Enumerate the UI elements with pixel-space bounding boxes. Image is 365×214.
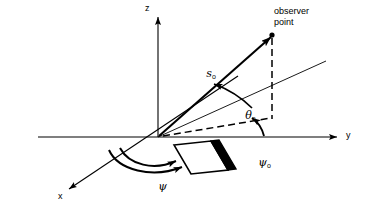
observer-point-diagram: z y x observer point so θo ψo ψ	[0, 0, 365, 214]
observer-point-label-line2: point	[274, 17, 294, 27]
slant-range-subscript: o	[212, 73, 216, 80]
observer-point-label-line1: observer	[274, 6, 309, 16]
psi-o-angle-label: ψo	[246, 143, 271, 182]
axis-label-z: z	[145, 3, 150, 13]
theta-subscript: o	[252, 115, 256, 122]
psi-o-subscript: o	[267, 162, 271, 169]
theta-symbol: θ	[245, 109, 252, 122]
observer-point-marker	[269, 32, 274, 37]
psi-symbol: ψ	[158, 180, 167, 193]
body-plate	[174, 140, 236, 174]
psi-o-symbol: ψ	[258, 156, 267, 169]
slant-range-label: so	[194, 54, 216, 93]
axis-label-x: x	[58, 191, 63, 201]
diagram-canvas	[0, 0, 365, 214]
psi-angle-label: ψ	[146, 167, 167, 206]
axis-label-y: y	[346, 130, 351, 140]
psi-angle-arc-inner	[120, 148, 176, 166]
theta-angle-label: θo	[233, 96, 256, 135]
